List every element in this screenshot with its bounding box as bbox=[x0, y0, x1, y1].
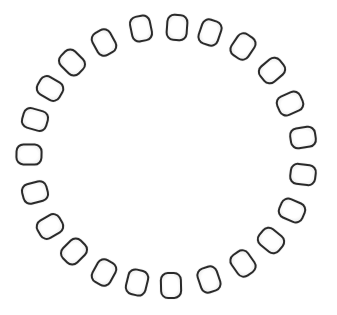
bead-shape bbox=[226, 29, 259, 64]
bead-shape bbox=[33, 210, 67, 243]
bead-shape bbox=[288, 124, 318, 150]
bead-shape bbox=[273, 87, 307, 118]
bead-shape bbox=[88, 25, 120, 59]
bead-shape bbox=[254, 223, 289, 257]
bead-shape bbox=[15, 143, 42, 166]
bead-shape bbox=[127, 13, 154, 44]
bead-shape bbox=[275, 195, 308, 226]
bead-ring bbox=[0, 0, 337, 315]
bead-shape bbox=[255, 53, 290, 87]
bead-shape bbox=[19, 105, 51, 134]
bead-shape bbox=[226, 246, 260, 281]
bead-shape bbox=[165, 13, 189, 41]
bead-shape bbox=[288, 161, 318, 186]
bead-shape bbox=[160, 271, 183, 299]
bead-shape bbox=[88, 255, 120, 289]
bead-shape bbox=[194, 263, 223, 296]
bead-shape bbox=[33, 72, 67, 105]
bead-shape bbox=[195, 16, 224, 49]
bead-shape bbox=[57, 234, 92, 269]
bead-shape bbox=[19, 178, 51, 206]
bead-shape bbox=[123, 266, 151, 298]
bead-shape bbox=[55, 45, 90, 80]
